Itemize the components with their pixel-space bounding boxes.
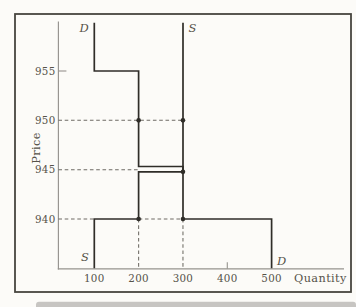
supply-demand-chart: Quantity Price 9409459509551002003004005… (0, 0, 356, 307)
y-tick-label-945: 945 (35, 163, 56, 175)
figure-container: Quantity Price 9409459509551002003004005… (0, 0, 356, 307)
curve-label-s-2: S (81, 250, 89, 264)
curve-label-s-1: S (188, 21, 196, 35)
data-point-300-950 (181, 118, 186, 123)
x-tick-label-300: 300 (173, 272, 194, 284)
data-point-300-945 (181, 170, 186, 175)
x-tick-label-100: 100 (84, 272, 105, 284)
y-axis-title: Price (30, 132, 43, 164)
page-edge-band (36, 302, 356, 307)
data-point-200-940 (136, 217, 141, 222)
data-point-200-950 (136, 118, 141, 123)
y-tick-label-940: 940 (35, 213, 56, 225)
curve-label-d-0: D (79, 21, 89, 35)
x-tick-label-200: 200 (128, 272, 149, 284)
x-axis-title: Quantity (294, 272, 347, 285)
x-tick-label-400: 400 (217, 272, 238, 284)
y-tick-label-955: 955 (35, 65, 56, 77)
x-tick-label-500: 500 (261, 272, 282, 284)
data-point-300-940 (181, 217, 186, 222)
curve-label-d-3: D (276, 254, 286, 268)
y-tick-label-950: 950 (35, 114, 56, 126)
